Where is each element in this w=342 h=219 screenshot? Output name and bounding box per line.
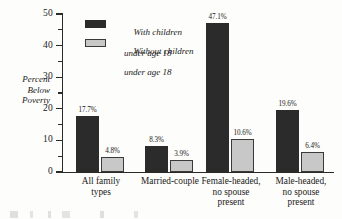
legend-label-without-children-line-2: under age 18 <box>111 67 193 77</box>
bar-with-children <box>76 116 99 172</box>
y-axis-tick-label: 50 <box>43 9 53 19</box>
poverty-bar-chart-figure: Percent Below Poverty 01020304050 17.7%8… <box>0 0 342 219</box>
bar-with-children <box>206 23 229 172</box>
x-axis-category-label-line: present <box>265 197 337 208</box>
bar-value-label: 4.8% <box>95 148 130 155</box>
x-axis-category-label-line: Male-headed, <box>265 176 337 187</box>
bar-value-label: 3.9% <box>164 151 199 158</box>
x-axis-category-label: Male-headed,no spousepresent <box>265 176 337 208</box>
y-axis-tick-label: 40 <box>43 41 53 51</box>
x-axis-category-label: All familytypes <box>65 176 137 197</box>
y-axis-tick-minor <box>58 61 62 62</box>
bar-without-children <box>101 157 124 172</box>
x-axis-category-label-line: types <box>65 187 137 198</box>
bar-without-children <box>170 160 193 172</box>
bar-value-label: 19.6% <box>270 101 305 108</box>
bar-value-label: 8.3% <box>139 137 174 144</box>
legend-swatch-with-children <box>85 20 106 28</box>
bar-value-label: 10.6% <box>225 130 260 137</box>
y-axis-tick-major <box>56 77 63 78</box>
y-axis-tick-label: 0 <box>48 167 53 177</box>
y-axis-tick-major <box>56 13 63 14</box>
bar-value-label: 6.4% <box>295 143 330 150</box>
y-axis-tick-minor <box>58 156 62 157</box>
bar-without-children <box>301 152 324 172</box>
y-axis-tick-major <box>56 140 63 141</box>
y-axis-tick-minor <box>58 92 62 93</box>
legend-label-without-children: Without children under age 18 <box>111 36 193 97</box>
y-axis-tick-major <box>56 171 63 172</box>
y-axis-line <box>62 13 63 173</box>
y-axis-tick-minor <box>58 124 62 125</box>
bar-value-label: 47.1% <box>200 14 235 21</box>
y-axis-tick-major <box>56 45 63 46</box>
x-axis-category-label-line: no spouse <box>195 187 267 198</box>
x-axis-category-label-line: All family <box>65 176 137 187</box>
x-axis-category-label: Female-headed,no spousepresent <box>195 176 267 208</box>
legend-label-without-children-line-1: Without children <box>134 46 194 56</box>
y-axis-tick-label: 30 <box>43 72 53 82</box>
y-axis-tick-major <box>56 108 63 109</box>
bar-without-children <box>231 139 254 172</box>
y-axis-tick-minor <box>58 29 62 30</box>
scan-artifact-smudge <box>4 211 184 218</box>
x-axis-category-label-line: present <box>195 197 267 208</box>
plot-area: Percent Below Poverty 01020304050 17.7%8… <box>0 0 342 219</box>
y-axis-tick-label: 20 <box>43 104 53 114</box>
x-axis-line <box>62 172 334 173</box>
y-axis-tick-label: 10 <box>43 135 53 145</box>
bar-with-children <box>276 110 299 172</box>
bar-value-label: 17.7% <box>70 107 105 114</box>
legend-swatch-without-children <box>85 39 106 47</box>
y-axis-title-line-2: Below <box>8 85 50 96</box>
x-axis-category-label-line: Female-headed, <box>195 176 267 187</box>
x-axis-category-label-line: no spouse <box>265 187 337 198</box>
